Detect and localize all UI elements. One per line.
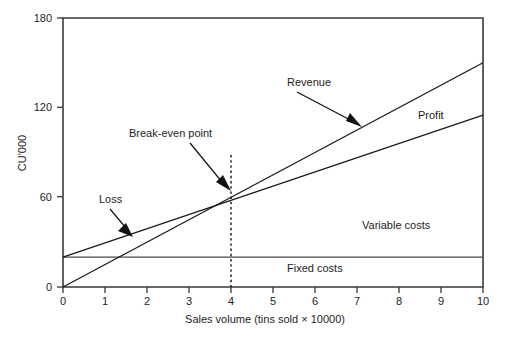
x-tick-label-3: 3 — [186, 295, 192, 307]
annotation-break-even-label: Break-even point — [129, 127, 212, 139]
annotation-revenue-leader — [297, 92, 354, 122]
x-tick-label-1: 1 — [102, 295, 108, 307]
x-tick-label-8: 8 — [396, 295, 402, 307]
y-tick-label-180: 180 — [34, 12, 52, 24]
annotation-fixed-costs-label: Fixed costs — [287, 262, 343, 274]
x-tick-label-7: 7 — [354, 295, 360, 307]
x-axis-ticks: 0 1 2 3 4 5 6 7 8 9 10 — [60, 287, 489, 307]
x-tick-label-9: 9 — [438, 295, 444, 307]
x-axis-title: Sales volume (tins sold × 10000) — [185, 313, 345, 325]
y-axis-ticks: 180 120 60 0 — [34, 12, 63, 293]
annotation-loss-leader — [110, 209, 126, 228]
annotation-revenue: Revenue — [287, 76, 362, 127]
x-tick-label-10: 10 — [477, 295, 489, 307]
annotation-break-even-point: Break-even point — [129, 127, 231, 191]
x-tick-label-2: 2 — [144, 295, 150, 307]
plot-frame — [63, 18, 483, 287]
x-tick-label-5: 5 — [270, 295, 276, 307]
y-tick-label-120: 120 — [34, 101, 52, 113]
annotation-variable-costs-label: Variable costs — [362, 219, 431, 231]
chart-canvas: 180 120 60 0 0 1 2 3 4 5 6 7 8 — [0, 0, 510, 338]
y-tick-label-0: 0 — [46, 281, 52, 293]
annotation-loss: Loss — [99, 193, 133, 237]
annotation-break-even-leader — [190, 143, 222, 182]
annotation-loss-label: Loss — [99, 193, 123, 205]
x-tick-label-6: 6 — [312, 295, 318, 307]
series-total-costs-line — [63, 115, 483, 257]
annotation-profit-label: Profit — [418, 109, 444, 121]
breakeven-chart-figure: 180 120 60 0 0 1 2 3 4 5 6 7 8 — [0, 0, 510, 338]
series-revenue-line — [63, 63, 483, 287]
annotation-revenue-label: Revenue — [287, 76, 331, 88]
x-tick-label-0: 0 — [60, 295, 66, 307]
x-tick-label-4: 4 — [228, 295, 234, 307]
y-axis-title: CU'000 — [16, 135, 28, 171]
annotation-revenue-arrow-icon — [346, 113, 362, 127]
y-tick-label-60: 60 — [40, 191, 52, 203]
annotation-loss-arrow-icon — [118, 223, 133, 237]
